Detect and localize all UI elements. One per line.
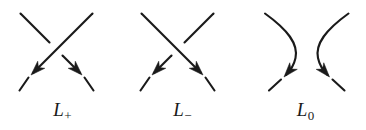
l-zero-right-strand-body [317, 14, 348, 76]
skein-relation-figure: L+ L− L0 [0, 0, 366, 130]
l-minus-over-strand [142, 14, 215, 91]
l-minus-under-strand-upper-segment [185, 14, 214, 43]
l-zero-right-strand [317, 14, 348, 91]
l-minus-over-strand-body [142, 14, 202, 74]
l-zero-left-strand-tail [269, 80, 281, 91]
l-plus-under-strand [21, 14, 94, 91]
panel-label-l-minus: L− [120, 100, 245, 122]
l-plus-over-strand-body [33, 14, 93, 74]
panel-label-l-minus-base: L [173, 99, 184, 120]
l-plus-under-strand-tail [85, 78, 94, 91]
l-minus-over-strand-tail [206, 78, 215, 91]
panel-l-zero-graphic [265, 14, 349, 91]
l-minus-under-strand [141, 14, 214, 91]
panel-l-plus-graphic [20, 14, 94, 91]
l-zero-arrowhead-right [316, 63, 333, 81]
panel-label-l-plus-subscript: + [64, 108, 71, 123]
l-plus-over-strand-tail [20, 78, 29, 91]
panel-l-minus-graphic [141, 14, 215, 91]
panel-label-l-zero-subscript: 0 [308, 108, 315, 123]
l-plus-under-strand-upper-segment [21, 14, 50, 43]
panel-label-l-minus-subscript: − [184, 108, 191, 123]
panel-label-l-zero-base: L [297, 99, 308, 120]
l-minus-under-strand-tail [141, 78, 150, 91]
panel-label-l-zero: L0 [245, 100, 366, 122]
l-zero-left-strand [265, 14, 296, 91]
l-zero-right-strand-tail [333, 80, 345, 91]
l-zero-arrowhead-left [280, 63, 297, 81]
panel-label-l-plus-base: L [53, 99, 64, 120]
l-zero-left-strand-body [265, 14, 296, 76]
panel-label-l-plus: L+ [0, 100, 125, 122]
l-plus-over-strand [20, 14, 93, 91]
